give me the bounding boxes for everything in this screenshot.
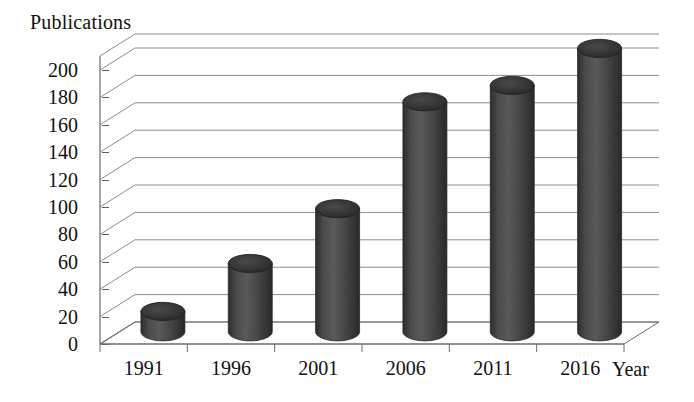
bar-cylinder (403, 93, 447, 341)
plot-area (0, 0, 694, 402)
grid-line (100, 185, 659, 207)
grid-line (100, 158, 659, 180)
bar-body (228, 263, 272, 341)
grid-line (100, 212, 659, 234)
bars (141, 39, 622, 341)
bar-top-ellipse (490, 76, 534, 94)
grid-lines (100, 48, 659, 344)
bar-body (490, 85, 534, 341)
x-axis-tick-label: 1991 (104, 358, 184, 378)
bar-cylinder (578, 39, 622, 341)
back-wall-top-edge (100, 34, 659, 56)
grid-line (100, 240, 659, 262)
grid-line (100, 103, 659, 125)
x-axis-tick-label: 2001 (278, 358, 358, 378)
bar-body (403, 102, 447, 341)
bar-chart: Publications Year 2001801601401201008060… (0, 0, 694, 402)
bar-body (316, 209, 360, 341)
bar-top-ellipse (578, 39, 622, 57)
bar-cylinder (490, 76, 534, 341)
bar-cylinder (141, 302, 185, 341)
axis-lines (100, 34, 659, 344)
bar-body (578, 48, 622, 341)
x-axis-tick-label: 2016 (540, 358, 620, 378)
x-axis-tick-label: 2006 (366, 358, 446, 378)
x-axis-tick-label: 2011 (453, 358, 533, 378)
grid-line (100, 75, 659, 97)
bar-top-ellipse (403, 93, 447, 111)
bar-top-ellipse (316, 200, 360, 218)
bar-top-ellipse (228, 254, 272, 272)
x-axis-tick-label: 1996 (191, 358, 271, 378)
grid-line (100, 130, 659, 152)
bar-cylinder (228, 254, 272, 341)
bar-top-ellipse (141, 302, 185, 320)
bar-cylinder (316, 200, 360, 341)
grid-line (100, 48, 659, 70)
x-axis-tick-marks (100, 344, 624, 352)
grid-line (100, 267, 659, 289)
